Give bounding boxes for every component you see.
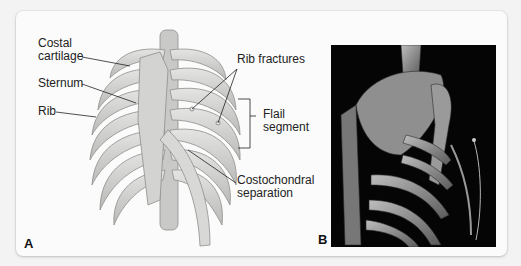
label-costal-cartilage: Costal cartilage xyxy=(38,37,83,63)
ct-reconstruction-image xyxy=(331,45,496,247)
label-rib-fractures: Rib fractures xyxy=(237,53,305,66)
label-costochondral-separation: Costochondral separation xyxy=(237,174,314,200)
ct-rib-render xyxy=(331,45,496,247)
panel-letter-b: B xyxy=(318,232,327,247)
label-flail-segment: Flail segment xyxy=(263,108,309,134)
panel-letter-a: A xyxy=(24,236,33,251)
label-sternum: Sternum xyxy=(38,77,83,90)
label-rib: Rib xyxy=(38,105,56,118)
